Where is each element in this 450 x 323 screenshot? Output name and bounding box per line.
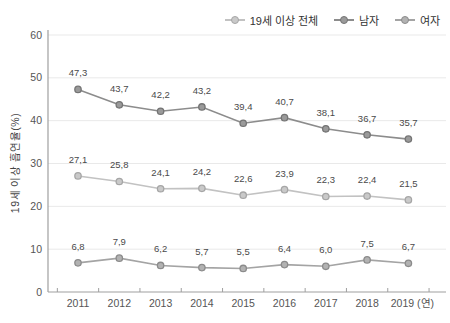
data-point-marker: [116, 102, 122, 108]
data-point-label: 7,5: [360, 238, 373, 249]
data-point-label: 47,3: [69, 67, 88, 78]
data-point-marker: [75, 86, 81, 92]
data-point-marker: [323, 193, 329, 199]
x-tick-label: 2011: [67, 297, 90, 309]
data-point-label: 5,5: [237, 246, 250, 257]
legend-item-1: 남자: [334, 12, 379, 28]
data-point-marker: [281, 114, 287, 120]
data-point-label: 7,9: [113, 236, 126, 247]
data-point-marker: [405, 197, 411, 203]
data-point-label: 24,2: [193, 166, 212, 177]
data-point-marker: [199, 264, 205, 270]
y-tick-label: 10: [30, 243, 42, 255]
data-point-label: 22,3: [317, 174, 336, 185]
data-point-marker: [323, 126, 329, 132]
x-tick-label: 2016: [273, 297, 297, 309]
data-point-marker: [116, 178, 122, 184]
data-point-label: 5,7: [195, 246, 208, 257]
data-point-label: 6,2: [154, 243, 167, 254]
data-point-marker: [281, 186, 287, 192]
data-point-label: 22,6: [234, 173, 253, 184]
data-point-label: 43,2: [193, 85, 212, 96]
data-point-label: 6,8: [71, 241, 84, 252]
y-tick-label: 60: [30, 29, 42, 41]
y-tick-label: 20: [30, 200, 42, 212]
x-tick-label: 2013: [149, 297, 173, 309]
x-tick-label: 2015: [232, 297, 256, 309]
data-point-label: 6,0: [319, 244, 332, 255]
legend-marker-dot-icon: [231, 16, 239, 24]
data-point-marker: [405, 136, 411, 142]
legend-marker-dot-icon: [401, 16, 409, 24]
plot-area: 0102030405060201120122013201420152016201…: [0, 0, 450, 323]
data-point-label: 36,7: [358, 113, 377, 124]
data-point-label: 23,9: [275, 168, 294, 179]
data-point-label: 6,4: [278, 243, 291, 254]
data-point-marker: [199, 104, 205, 110]
data-point-label: 42,2: [151, 89, 170, 100]
y-tick-label: 40: [30, 114, 42, 126]
smoking-rate-line-chart: 0102030405060201120122013201420152016201…: [0, 0, 450, 323]
data-point-marker: [405, 260, 411, 266]
y-tick-label: 30: [30, 157, 42, 169]
legend-marker-icon: [225, 19, 245, 21]
data-point-marker: [157, 186, 163, 192]
data-point-label: 27,1: [69, 154, 88, 165]
legend-item-2: 여자: [395, 12, 440, 28]
legend-label: 여자: [420, 12, 440, 28]
legend-label: 19세 이상 전체: [250, 12, 318, 28]
data-point-marker: [364, 132, 370, 138]
x-tick-label: 2019 (연): [391, 297, 434, 309]
x-tick-label: 2014: [190, 297, 214, 309]
data-point-marker: [364, 257, 370, 263]
legend-marker-icon: [334, 19, 354, 21]
data-point-marker: [240, 120, 246, 126]
data-point-marker: [364, 193, 370, 199]
data-point-marker: [157, 108, 163, 114]
data-point-label: 43,7: [110, 83, 129, 94]
x-tick-label: 2012: [108, 297, 132, 309]
data-point-label: 38,1: [317, 107, 336, 118]
y-tick-label: 0: [36, 286, 42, 298]
legend-marker-icon: [395, 19, 415, 21]
data-point-marker: [75, 260, 81, 266]
data-point-label: 22,4: [358, 174, 377, 185]
x-tick-label: 2018: [355, 297, 379, 309]
data-point-marker: [240, 265, 246, 271]
data-point-label: 25,8: [110, 159, 129, 170]
data-point-marker: [75, 173, 81, 179]
data-point-marker: [240, 192, 246, 198]
data-point-label: 21,5: [399, 178, 418, 189]
data-point-marker: [199, 185, 205, 191]
data-point-marker: [281, 261, 287, 267]
legend-label: 남자: [359, 12, 379, 28]
data-point-marker: [116, 255, 122, 261]
legend-marker-dot-icon: [340, 16, 348, 24]
data-point-label: 40,7: [275, 96, 294, 107]
data-point-label: 6,7: [402, 241, 415, 252]
legend-item-0: 19세 이상 전체: [225, 12, 318, 28]
data-point-label: 35,7: [399, 117, 418, 128]
chart-legend: 19세 이상 전체남자여자: [225, 12, 440, 28]
data-point-marker: [323, 263, 329, 269]
y-tick-label: 50: [30, 71, 42, 83]
x-tick-label: 2017: [314, 297, 338, 309]
data-point-label: 39,4: [234, 101, 253, 112]
data-point-label: 24,1: [151, 167, 170, 178]
data-point-marker: [157, 262, 163, 268]
y-axis-title: 19세 이상 흡연율(%): [7, 63, 21, 263]
